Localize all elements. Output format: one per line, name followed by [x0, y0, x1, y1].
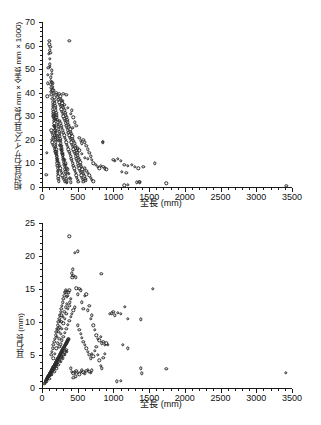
- figure-root: 相対耳石サイズ(耳石長 mm×全長 mm×1000) 0500100015002…: [0, 0, 321, 425]
- axis-tick: [40, 154, 42, 155]
- axis-tick: [40, 178, 42, 179]
- axes-top: 0500100015002000250030003500010203040506…: [42, 22, 292, 187]
- axis-tick: [39, 140, 43, 141]
- axis-tick: [199, 389, 200, 391]
- axis-tick: [113, 188, 114, 192]
- y-tick-label: 20: [25, 252, 35, 261]
- y-tick-label: 40: [25, 88, 35, 97]
- axis-tick: [149, 389, 150, 393]
- axis-tick: [40, 342, 42, 343]
- axis-tick: [78, 188, 79, 192]
- axis-tick: [92, 389, 93, 391]
- axis-tick: [40, 335, 42, 336]
- axis-tick: [256, 188, 257, 192]
- axis-tick: [199, 188, 200, 190]
- axis-tick: [106, 389, 107, 391]
- y-tick-label: 20: [25, 135, 35, 144]
- axis-tick: [292, 188, 293, 192]
- axis-tick: [40, 107, 42, 108]
- axis-tick: [156, 389, 157, 391]
- axis-tick: [213, 389, 214, 391]
- axis-tick: [249, 389, 250, 391]
- axis-tick: [40, 302, 42, 303]
- axis-tick: [63, 389, 64, 391]
- axis-tick: [39, 289, 43, 290]
- axis-tick: [78, 389, 79, 393]
- axis-tick: [40, 368, 42, 369]
- y-tick-label: 70: [25, 18, 35, 27]
- axis-tick: [40, 276, 42, 277]
- axis-tick: [228, 389, 229, 391]
- x-tick-label: 0: [39, 193, 44, 202]
- x-axis-line: [42, 187, 292, 188]
- y-tick-label: 5: [30, 351, 35, 360]
- axis-tick: [163, 188, 164, 190]
- axis-tick: [40, 309, 42, 310]
- axis-tick: [171, 389, 172, 391]
- axis-tick: [271, 389, 272, 391]
- axes-bottom: 05001000150020002500300035000510152025: [42, 223, 292, 388]
- axis-tick: [40, 102, 42, 103]
- axis-tick: [56, 389, 57, 391]
- axis-tick: [163, 389, 164, 391]
- axis-tick: [263, 389, 264, 391]
- axis-tick: [71, 389, 72, 391]
- axis-tick: [40, 135, 42, 136]
- axis-tick: [271, 188, 272, 190]
- axis-tick: [185, 389, 186, 393]
- x-tick-label: 0: [39, 394, 44, 403]
- axis-tick: [135, 188, 136, 190]
- axis-tick: [278, 389, 279, 391]
- axis-tick: [40, 249, 42, 250]
- axis-tick: [40, 41, 42, 42]
- axis-tick: [56, 188, 57, 190]
- axis-tick: [42, 188, 43, 192]
- axis-tick: [40, 243, 42, 244]
- axis-tick: [40, 375, 42, 376]
- axis-tick: [128, 188, 129, 190]
- x-axis-title-top: 全長 (mm): [140, 198, 182, 208]
- axis-tick: [221, 188, 222, 192]
- axis-tick: [192, 188, 193, 190]
- axis-tick: [40, 97, 42, 98]
- axis-tick: [40, 60, 42, 61]
- axis-tick: [278, 188, 279, 190]
- axis-tick: [292, 389, 293, 393]
- axis-tick: [106, 188, 107, 190]
- axis-tick: [40, 64, 42, 65]
- axis-tick: [40, 79, 42, 80]
- axis-tick: [149, 188, 150, 192]
- y-tick-label: 60: [25, 41, 35, 50]
- axis-tick: [40, 27, 42, 28]
- axis-tick: [40, 112, 42, 113]
- axis-tick: [40, 263, 42, 264]
- y-tick-label: 50: [25, 65, 35, 74]
- axis-tick: [285, 389, 286, 391]
- axis-tick: [39, 322, 43, 323]
- axis-tick: [39, 93, 43, 94]
- y-tick-label: 10: [25, 318, 35, 327]
- axis-tick: [242, 389, 243, 391]
- axis-tick: [39, 163, 43, 164]
- axis-tick: [235, 188, 236, 190]
- axis-tick: [156, 188, 157, 190]
- axis-tick: [40, 348, 42, 349]
- y-axis-line: [42, 223, 43, 389]
- axis-tick: [242, 188, 243, 190]
- y-tick-label: 0: [30, 384, 35, 393]
- axis-tick: [40, 88, 42, 89]
- axis-tick: [40, 296, 42, 297]
- x-tick-label: 500: [70, 394, 85, 403]
- axis-tick: [206, 389, 207, 391]
- axis-tick: [40, 31, 42, 32]
- axis-tick: [63, 188, 64, 190]
- axis-tick: [40, 83, 42, 84]
- axis-tick: [42, 389, 43, 393]
- x-tick-label: 3000: [246, 394, 266, 403]
- y-tick-label: 15: [25, 285, 35, 294]
- axis-tick: [135, 389, 136, 391]
- axis-tick: [249, 188, 250, 190]
- axis-tick: [206, 188, 207, 190]
- axis-tick: [228, 188, 229, 190]
- axis-tick: [49, 389, 50, 391]
